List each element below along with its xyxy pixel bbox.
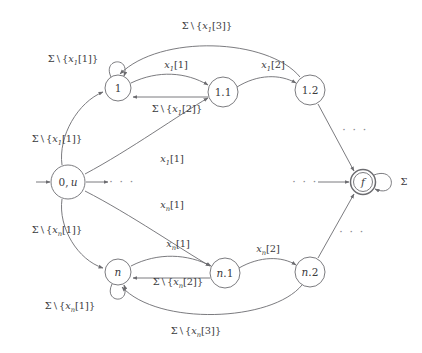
edge-start-to-noden-1 [85, 191, 210, 266]
edge-selfloop-noden [110, 284, 125, 299]
edge-label-n1-to-n: Σ \ {xn[2]} [153, 277, 203, 290]
edge-label-n1-to-n2: xn[2] [256, 244, 280, 257]
edge-node1-1-to-node1-2 [237, 77, 296, 87]
edge-node1-2-to-final [318, 104, 354, 171]
edge-label-11-to-12: x1[2] [261, 60, 285, 73]
node-label-1-2: 1.2 [302, 85, 319, 96]
node-label-n: n [115, 267, 122, 278]
edge-label-start-to-11: x1[1] [160, 154, 184, 167]
node-label-start: 0, u [59, 177, 78, 188]
edge-label-start-to-n1: xn[1] [160, 200, 184, 213]
node-label-n-1: n.1 [217, 268, 234, 279]
edge-label-loop-1: Σ \ {x1[1]} [48, 54, 98, 67]
automaton-diagram: 0, u 1 1.1 1.2 n n.1 n.2 f Σ \ {x1[3]} Σ… [0, 0, 422, 353]
edge-label-top-arc: Σ \ {x1[3]} [182, 21, 232, 34]
node-label-n-2: n.2 [302, 267, 319, 278]
ellipsis-final-left: · · · [292, 177, 317, 188]
node-label-1-1: 1.1 [215, 87, 232, 98]
edge-label-bottom-arc: Σ \ {xn[3]} [171, 326, 221, 339]
edge-noden-1-to-noden-2 [239, 259, 296, 268]
node-label-1: 1 [115, 83, 122, 94]
edge-noden-2-to-noden [122, 285, 302, 315]
ellipsis-lower-right: · · · [339, 227, 364, 238]
edge-label-loop-n: Σ \ {xn[1]} [45, 301, 95, 314]
edge-label-start-to-1: Σ \ {x1[1]} [32, 134, 82, 147]
edge-start-to-node1 [61, 92, 103, 165]
ellipsis-start-right: · · · [109, 177, 134, 188]
edge-label-final-loop: Σ [401, 177, 408, 187]
edge-label-1-to-11: x1[1] [164, 60, 188, 73]
ellipsis-upper-right: · · · [342, 125, 367, 136]
edge-node1-to-node1-1 [131, 74, 208, 85]
node-label-final: f [361, 177, 365, 188]
edge-label-11-to-1: Σ \ {x1[2]} [152, 104, 202, 117]
edge-label-start-to-n: Σ \ {xn[1]} [32, 225, 82, 238]
edge-selfloop-final [374, 173, 391, 190]
edge-noden-to-noden-1 [131, 256, 211, 266]
edge-label-n-to-n1: xn[1] [166, 239, 190, 252]
